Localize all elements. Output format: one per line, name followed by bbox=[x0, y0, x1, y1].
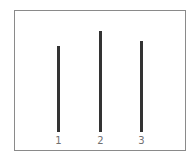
bar-2 bbox=[99, 31, 102, 132]
x-tick-label-2: 2 bbox=[93, 136, 109, 146]
bar-3 bbox=[140, 41, 143, 132]
x-tick-label-3: 3 bbox=[134, 136, 150, 146]
bar-1 bbox=[57, 46, 60, 132]
x-tick-label-1: 1 bbox=[51, 136, 67, 146]
